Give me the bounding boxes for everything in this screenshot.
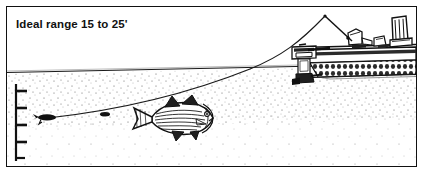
line-bead-sinker <box>100 112 110 116</box>
page-title: Ideal range 15 to 25' <box>16 18 128 30</box>
illustration-scene: Ideal range 15 to 25' <box>0 0 425 176</box>
fishing-rod <box>323 14 352 41</box>
anglers-and-seats <box>348 16 412 49</box>
trolling-boat <box>292 14 416 85</box>
